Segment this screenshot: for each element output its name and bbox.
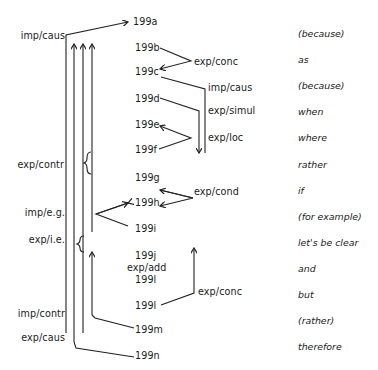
gloss-199g: if [298,185,304,196]
node-199i: 199i [135,223,156,234]
gloss-199n: therefore [298,341,342,352]
relation-exp-conc-top: exp/conc [194,56,238,67]
relation-exp-simul: exp/simul [208,105,255,116]
exp-conc-top-connector [160,48,191,69]
discourse-relation-diagram: imp/caus exp/contr imp/e.g. exp/i.e. imp… [0,0,378,370]
exp-simul-connector [160,98,199,153]
exp-caus-to-199n [74,342,134,357]
relation-exp-loc: exp/loc [208,132,243,143]
imp-caus-right-connector [161,77,205,153]
imp-caus-left-connector [66,22,128,333]
node-199f: 199f [135,144,157,155]
gloss-199d: when [298,106,323,117]
relation-exp-add: exp/add [127,262,167,273]
relation-imp-caus-left: imp/caus [4,30,65,41]
gloss-199j: and [298,263,316,274]
gloss-199b: as [298,54,309,65]
relation-imp-contr: imp/contr [0,308,65,319]
relation-imp-eg: imp/e.g. [4,207,65,218]
gloss-199e: where [298,132,327,143]
gloss-199c: (because) [298,80,345,91]
node-199n: 199n [135,350,160,361]
relation-exp-conc-bottom: exp/conc [198,286,242,297]
gloss-199l: but [298,289,314,300]
node-199g: 199g [135,172,160,183]
relation-exp-contr: exp/contr [0,159,64,170]
node-199d: 199d [135,93,160,104]
node-199c: 199c [135,66,159,77]
relation-imp-caus-right: imp/caus [208,82,252,93]
gloss-199a: (because) [298,28,345,39]
exp-contr-brace [84,152,91,174]
gloss-199f: rather [298,159,327,170]
exp-conc-bottom-connector [161,248,194,305]
imp-eg-connector [96,203,128,226]
exp-loc-connector [159,126,191,149]
node-199a: 199a [133,16,158,27]
gloss-199h: (for example) [298,211,362,222]
relation-exp-caus: exp/caus [4,332,65,343]
node-199l-first: 199l [135,274,156,285]
node-199e: 199e [135,119,160,130]
exp-cond-connector [160,190,193,206]
node-199b: 199b [135,42,160,53]
gloss-199m: (rather) [298,315,334,326]
node-199l-second: 199l [135,300,156,311]
gloss-199i: let's be clear [298,237,358,248]
relation-exp-ie: exp/i.e. [4,234,65,245]
node-199j: 199j [135,250,156,261]
relation-exp-cond: exp/cond [194,186,239,197]
node-199m: 199m [135,324,163,335]
node-199h: 199h [135,197,160,208]
